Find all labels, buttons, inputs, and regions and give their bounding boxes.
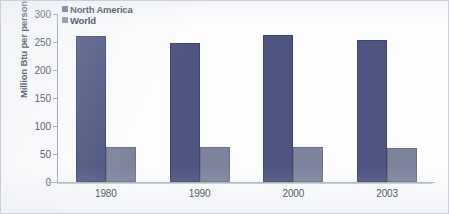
bar-north-america-1980 [76, 36, 106, 182]
bar-world-2003 [387, 148, 417, 182]
y-tick-mark [53, 14, 57, 15]
x-tick-label-2003: 2003 [362, 188, 412, 199]
chart-legend: North America World [62, 4, 133, 26]
x-tick-label-2000: 2000 [268, 188, 318, 199]
y-tick-mark [53, 98, 57, 99]
legend-item-world: World [62, 15, 133, 25]
y-axis-line [57, 14, 58, 183]
legend-item-north-america: North America [62, 4, 133, 14]
y-tick-label: 300 [35, 9, 51, 20]
y-tick-label: 150 [35, 93, 51, 104]
bar-world-1980 [106, 147, 136, 182]
bar-chart-figure: Million Btu per person 05010015020025030… [0, 0, 449, 214]
y-axis-title: Million Btu per person [18, 0, 29, 120]
bar-north-america-2003 [357, 40, 387, 182]
bar-north-america-2000 [263, 35, 293, 182]
legend-label-world: World [70, 15, 96, 26]
x-axis-baseline [57, 183, 432, 184]
y-tick-label: 50 [40, 149, 51, 160]
y-tick-label: 250 [35, 37, 51, 48]
bar-north-america-1990 [170, 43, 200, 182]
legend-label-north-america: North America [70, 4, 133, 15]
plot-area [57, 14, 432, 182]
y-tick-mark [53, 154, 57, 155]
x-tick-label-1980: 1980 [81, 188, 131, 199]
y-tick-label: 100 [35, 121, 51, 132]
legend-swatch-north-america-icon [62, 6, 68, 12]
x-tick-label-1990: 1990 [175, 188, 225, 199]
y-tick-mark [53, 70, 57, 71]
y-tick-mark [53, 42, 57, 43]
bar-world-2000 [293, 147, 323, 182]
legend-swatch-world-icon [62, 17, 68, 23]
y-tick-mark [53, 182, 57, 183]
y-tick-mark [53, 126, 57, 127]
y-tick-label: 200 [35, 65, 51, 76]
bar-world-1990 [200, 147, 230, 182]
